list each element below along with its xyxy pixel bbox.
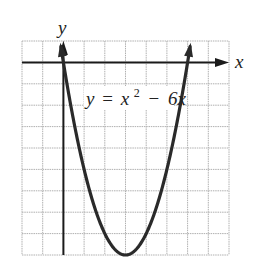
grid xyxy=(22,41,229,255)
eq-equals: = xyxy=(102,88,113,109)
eq-x: x xyxy=(120,88,130,109)
x-axis-label: x xyxy=(234,51,244,72)
eq-exponent: 2 xyxy=(134,86,140,100)
eq-y: y xyxy=(84,88,95,109)
eq-term: 6x xyxy=(168,88,187,109)
y-axis-label: y xyxy=(56,17,67,38)
eq-minus: − xyxy=(149,88,160,109)
function-graph: y x y = x 2 − 6x xyxy=(0,0,254,268)
equation-label: y = x 2 − 6x xyxy=(84,80,187,110)
